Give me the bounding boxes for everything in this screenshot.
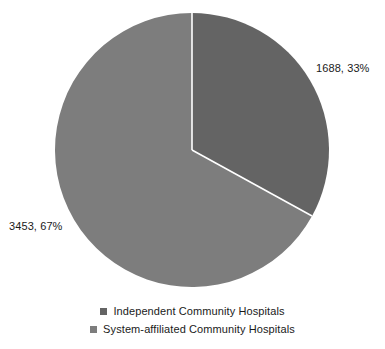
chart-legend: Independent Community Hospitals System-a… — [0, 304, 385, 337]
legend-swatch-icon-system-affiliated — [90, 326, 97, 333]
legend-item-independent[interactable]: Independent Community Hospitals — [100, 304, 284, 319]
pie-plot-area: 1688, 33% 3453, 67% — [0, 0, 385, 300]
legend-label-independent: Independent Community Hospitals — [113, 305, 284, 318]
legend-label-system-affiliated: System-affiliated Community Hospitals — [103, 323, 295, 336]
legend-swatch-icon-independent — [100, 308, 107, 315]
pie-graphic — [0, 0, 385, 300]
legend-item-system-affiliated[interactable]: System-affiliated Community Hospitals — [90, 322, 295, 337]
data-label-system-affiliated: 3453, 67% — [9, 220, 63, 232]
data-label-independent: 1688, 33% — [316, 62, 370, 74]
pie-chart: 1688, 33% 3453, 67% Independent Communit… — [0, 0, 385, 349]
